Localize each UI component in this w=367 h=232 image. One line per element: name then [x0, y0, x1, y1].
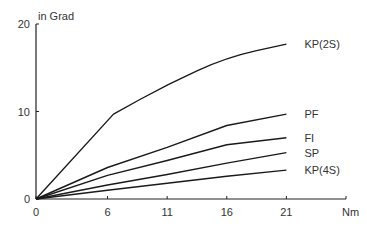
line-chart: 0611162101020 KP(2S)PFFISPKP(4S) in Grad…	[0, 0, 367, 232]
x-tick-label: 0	[33, 206, 39, 218]
y-tick-label: 10	[18, 106, 30, 118]
chart-canvas: 0611162101020 KP(2S)PFFISPKP(4S) in Grad…	[0, 0, 367, 232]
x-axis-label: Nm	[342, 206, 359, 218]
series-line	[36, 153, 286, 199]
axes: 0611162101020	[18, 18, 346, 218]
series-label: PF	[304, 108, 318, 120]
y-tick-label: 20	[18, 18, 30, 30]
series-lines	[36, 44, 286, 199]
series-label: KP(2S)	[304, 38, 339, 50]
x-tick-label: 16	[221, 206, 233, 218]
series-label: SP	[304, 147, 319, 159]
x-tick-label: 11	[161, 206, 172, 218]
series-line	[36, 138, 286, 199]
series-labels: KP(2S)PFFISPKP(4S)	[304, 38, 339, 176]
x-tick-label: 6	[104, 206, 110, 218]
x-tick-label: 21	[280, 206, 292, 218]
y-tick-label: 0	[24, 193, 30, 205]
series-label: FI	[304, 132, 314, 144]
series-line	[36, 170, 286, 199]
y-axis-label: in Grad	[38, 10, 74, 22]
series-label: KP(4S)	[304, 164, 339, 176]
